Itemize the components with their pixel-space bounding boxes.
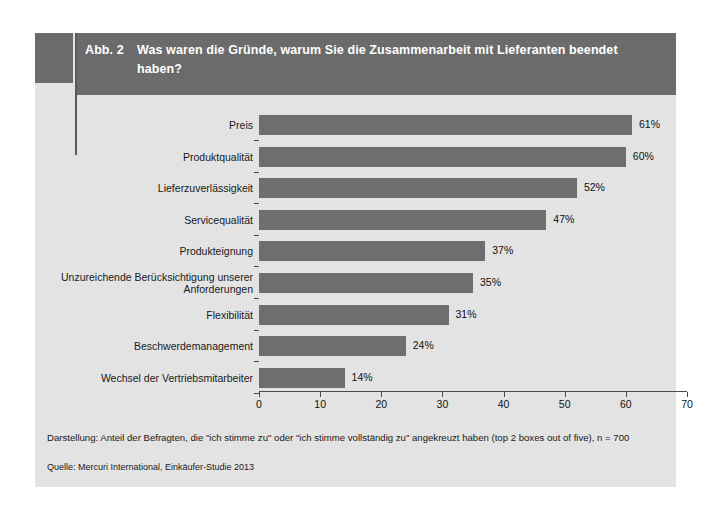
bar — [259, 241, 485, 261]
category-tick — [254, 203, 259, 204]
bar — [259, 336, 406, 356]
category-label: Produkteignung — [57, 245, 253, 257]
bar-row: 14% — [259, 368, 687, 388]
x-axis-tick — [442, 392, 443, 397]
plot-area: 61%60%52%47%37%35%31%24%14% — [259, 113, 687, 408]
bar — [259, 305, 449, 325]
category-tick — [254, 393, 259, 394]
bar-value-label: 24% — [413, 339, 434, 351]
bar-row: 61% — [259, 115, 687, 135]
bar — [259, 368, 345, 388]
x-axis-tick-label: 70 — [681, 398, 693, 410]
category-tick — [254, 330, 259, 331]
x-axis-tick — [259, 392, 260, 397]
category-label: Unzureichende Berücksichtigung unserer A… — [57, 271, 253, 295]
bar-value-label: 31% — [456, 308, 477, 320]
category-tick — [254, 235, 259, 236]
category-tick — [254, 172, 259, 173]
header-corner-block — [35, 33, 73, 83]
category-label: Beschwerdemanagement — [57, 340, 253, 352]
x-axis-tick-label: 10 — [314, 398, 326, 410]
bar-row: 52% — [259, 178, 687, 198]
bar-chart: PreisProduktqualitätLieferzuverlässigkei… — [35, 95, 676, 425]
category-label: Servicequalität — [57, 214, 253, 226]
x-axis-tick-label: 60 — [620, 398, 632, 410]
chart-footnote: Darstellung: Anteil der Befragten, die "… — [47, 431, 667, 444]
figure-panel: Abb. 2 Was waren die Gründe, warum Sie d… — [35, 33, 676, 487]
chart-source: Quelle: Mercuri International, Einkäufer… — [47, 461, 667, 474]
x-axis-tick — [504, 392, 505, 397]
x-axis-tick — [565, 392, 566, 397]
x-axis-tick-label: 40 — [498, 398, 510, 410]
x-axis-line — [259, 391, 687, 392]
bar — [259, 178, 577, 198]
bar-value-label: 60% — [633, 150, 654, 162]
bar-value-label: 61% — [639, 118, 660, 130]
figure-number: Abb. 2 — [85, 41, 137, 60]
category-tick — [254, 266, 259, 267]
bar-value-label: 35% — [480, 276, 501, 288]
bar-value-label: 47% — [553, 213, 574, 225]
category-label: Lieferzuverlässigkeit — [57, 182, 253, 194]
bar-value-label: 52% — [584, 181, 605, 193]
bar-row: 37% — [259, 241, 687, 261]
category-axis-labels: PreisProduktqualitätLieferzuverlässigkei… — [57, 113, 253, 408]
bar — [259, 210, 546, 230]
category-label: Wechsel der Vertriebsmitarbeiter — [57, 372, 253, 384]
category-tick — [254, 140, 259, 141]
bar-value-label: 14% — [352, 371, 373, 383]
bar-row: 24% — [259, 336, 687, 356]
x-axis-tick-label: 20 — [375, 398, 387, 410]
bar-row: 60% — [259, 147, 687, 167]
x-axis-tick-label: 0 — [256, 398, 262, 410]
category-tick — [254, 298, 259, 299]
x-axis-tick — [381, 392, 382, 397]
x-axis-tick — [687, 392, 688, 397]
bar-row: 47% — [259, 210, 687, 230]
figure-header-bar: Abb. 2 Was waren die Gründe, warum Sie d… — [77, 33, 676, 95]
category-label: Flexibilität — [57, 309, 253, 321]
category-label: Produktqualität — [57, 151, 253, 163]
category-label: Preis — [57, 119, 253, 131]
bar — [259, 273, 473, 293]
x-axis-tick — [320, 392, 321, 397]
bar-row: 35% — [259, 273, 687, 293]
bar-value-label: 37% — [492, 244, 513, 256]
x-axis-tick-label: 50 — [559, 398, 571, 410]
figure-title: Was waren die Gründe, warum Sie die Zusa… — [137, 41, 657, 79]
x-axis-tick — [626, 392, 627, 397]
bar — [259, 115, 632, 135]
bar-row: 31% — [259, 305, 687, 325]
x-axis-tick-label: 30 — [437, 398, 449, 410]
category-tick — [254, 361, 259, 362]
bar — [259, 147, 626, 167]
